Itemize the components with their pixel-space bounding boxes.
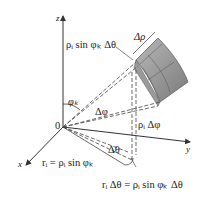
phi-k-label: φₖ: [68, 97, 78, 108]
r-delta-theta-label: rᵢ Δθ = ρᵢ sin φₖ Δθ: [102, 180, 183, 191]
r-i-label: rᵢ = ρᵢ sin φₖ: [42, 158, 94, 169]
delta-rho-label: Δρ: [134, 32, 145, 43]
z-axis-label: z: [56, 14, 60, 23]
origin-label: 0: [55, 121, 60, 132]
x-axis-label: x: [18, 160, 22, 169]
arc-top-label: ρᵢ sin φₖ Δθ: [66, 40, 116, 51]
rho-delta-phi-label: ρᵢ Δφ: [138, 120, 160, 131]
diagram-graphics: [0, 0, 207, 199]
spherical-wedge-diagram: z y x 0 Δρ ρᵢ sin φₖ Δθ φₖ Δφ ρᵢ Δφ Δθ r…: [0, 0, 207, 199]
wedge-shape: [136, 38, 188, 102]
delta-phi-label: Δφ: [95, 107, 108, 118]
delta-theta-label: Δθ: [108, 145, 120, 156]
y-axis-label: y: [186, 145, 190, 154]
